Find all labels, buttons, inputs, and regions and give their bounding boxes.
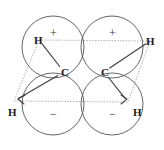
sigma-bonds: [18, 44, 146, 99]
atom-label-carbon-right: C: [101, 67, 109, 78]
orbital-diagram-canvas: [0, 0, 164, 150]
bond-carbon-right-hydrogen-lower-right: [108, 78, 125, 99]
atom-label-carbon-left: C: [61, 67, 69, 78]
atom-label-hydrogen-lower-left: H: [8, 107, 17, 118]
atom-label-hydrogen-upper-right: H: [146, 36, 155, 47]
lobe-bottom-left-circle: [22, 73, 84, 135]
atom-label-hydrogen-upper-left: H: [34, 35, 43, 46]
lobe-sign-top-right: +: [109, 27, 116, 39]
bond-arrowheads: [18, 95, 127, 104]
lobe-sign-bottom-left: −: [50, 108, 57, 120]
atom-label-hydrogen-lower-right: H: [133, 107, 142, 118]
orbital-diagram-figure: + + − − C C H H H H: [0, 0, 164, 150]
bond-carbon-right-hydrogen-upper-right: [110, 44, 146, 68]
lobe-sign-bottom-right: −: [109, 108, 116, 120]
bond-carbon-left-hydrogen-upper-left: [42, 44, 60, 67]
lobe-sign-top-left: +: [50, 27, 57, 39]
